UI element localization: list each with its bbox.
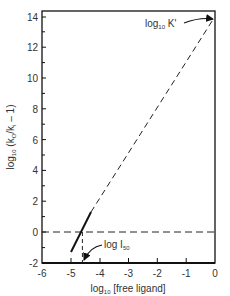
y-tick-label: 2 xyxy=(32,196,38,207)
x-tick-label: -5 xyxy=(67,268,76,279)
y-tick-labels: -2 0 2 4 6 8 10 12 14 xyxy=(27,12,39,269)
x-tick-labels: -6 -5 -4 -3 -2 -1 0 xyxy=(38,268,219,279)
y-tick-label: 0 xyxy=(32,227,38,238)
y-tick-label: 10 xyxy=(27,73,39,84)
y-tick-label: 14 xyxy=(27,12,39,23)
x-tick-label: -1 xyxy=(182,268,191,279)
k-prime-arrow xyxy=(184,19,213,24)
i50-arrow xyxy=(84,245,102,260)
extrapolation-line xyxy=(91,18,214,212)
k-prime-annotation: log10 K' xyxy=(145,18,176,30)
x-tick-label: -6 xyxy=(38,268,47,279)
plot-frame xyxy=(42,11,215,263)
y-tick-label: 4 xyxy=(32,165,38,176)
y-tick-label: 8 xyxy=(32,104,38,115)
i50-annotation: log I50 xyxy=(104,239,130,251)
x-tick-label: 0 xyxy=(212,268,218,279)
chart-canvas: -2 0 2 4 6 8 10 12 14 -6 -5 -4 -3 -2 -1 … xyxy=(0,0,230,296)
y-tick-label: 6 xyxy=(32,135,38,146)
x-tick-label: -4 xyxy=(96,268,105,279)
y-tick-label: 12 xyxy=(27,42,39,53)
x-axis-label: log10 [free ligand] xyxy=(90,283,165,295)
y-axis-label: log10 (kO/ki – 1) xyxy=(5,105,17,170)
x-tick-label: -2 xyxy=(153,268,162,279)
x-tick-label: -3 xyxy=(124,268,133,279)
